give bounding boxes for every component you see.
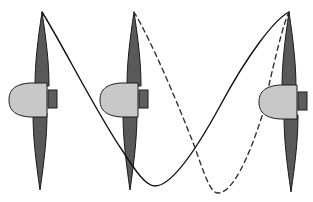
figure-container bbox=[0, 0, 313, 202]
nacelle-left bbox=[9, 83, 47, 117]
propeller-vortex-diagram bbox=[0, 0, 313, 202]
hub-right bbox=[298, 92, 307, 110]
nacelle-middle bbox=[100, 83, 138, 117]
nacelle-right bbox=[259, 85, 297, 119]
hub-middle bbox=[139, 90, 148, 108]
hub-left bbox=[48, 90, 57, 108]
